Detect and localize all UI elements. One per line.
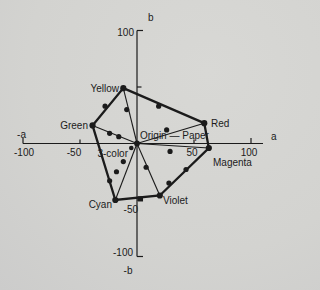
origin-paper-point [134,141,140,147]
vertex-dot-magenta [206,145,212,151]
vertex-dot-green [89,122,95,128]
a-axis-label: a [271,131,277,142]
tint-line-green [93,125,137,143]
tint-dot-green [116,134,121,139]
tint-dot-magenta [167,149,172,154]
tint-line-violet [137,144,160,196]
edge-dot-cyan-green [107,178,112,183]
point-label-red: Red [211,118,229,129]
three-color-label: 3-color [97,148,128,159]
tint-dot-yellow [124,107,129,112]
tint-line-yellow [123,88,137,143]
edge-dot-magenta-violet [183,167,188,172]
tint-dot-violet [144,165,149,170]
tint-line-magenta [137,144,209,149]
vertex-dot-red [201,120,207,126]
tint-dot-green [107,131,112,136]
x-tick-neg50: -50 [67,147,82,158]
y-tick-neg100: -100 [113,247,133,258]
point-label-violet: Violet [163,195,188,206]
point-label-magenta: Magenta [213,157,252,168]
point-label-yellow: Yellow [90,83,119,94]
vertex-dot-yellow [120,85,126,91]
x-tick-50: 50 [186,147,198,158]
three-color-point [129,146,134,151]
neg-a-axis-label: -a [17,129,26,140]
tint-dot-cyan [114,169,119,174]
y-tick-100: 100 [117,27,134,38]
neg-b-axis-label: -b [124,265,133,276]
x-tick-neg100: -100 [14,147,34,158]
ab-color-gamut-figure: b100YellowRedGreen-aa-100-503-color50100… [0,0,284,290]
vertex-dot-violet [157,192,163,198]
point-label-cyan: Cyan [89,199,112,210]
point-label-green: Green [60,120,88,131]
edge-dot-green-yellow [102,104,107,109]
edge-dot-magenta-violet [166,180,171,185]
ab-color-gamut-chart: b100YellowRedGreen-aa-100-503-color50100… [0,0,284,290]
y-tick-neg50: -50 [124,204,139,215]
edge-dot-yellow-red [156,104,161,109]
b-axis-label: b [148,12,154,23]
origin-paper-label: Origin — Paper [140,130,210,141]
vertex-dot-cyan [112,197,118,203]
tint-dot-cyan [121,159,126,164]
edge-square-violet-cyan [138,196,143,201]
